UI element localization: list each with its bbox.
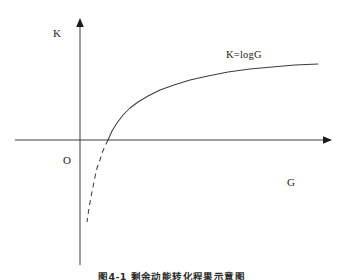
- origin-label: O: [63, 155, 71, 166]
- x-axis-label: G: [287, 177, 295, 188]
- log-curve-solid: [108, 64, 318, 140]
- figure-caption: 图4-1 剩余动能转化程果示意图: [0, 269, 343, 280]
- x-axis-arrowhead: [323, 136, 332, 144]
- curve-equation-label: K=logG: [226, 50, 262, 61]
- log-curve-plot: [0, 0, 343, 280]
- y-axis-label: K: [53, 28, 61, 39]
- figure-container: K O G K=logG 图4-1 剩余动能转化程果示意图: [0, 0, 343, 280]
- y-axis-arrowhead: [76, 18, 84, 27]
- log-curve-dashed: [87, 140, 108, 222]
